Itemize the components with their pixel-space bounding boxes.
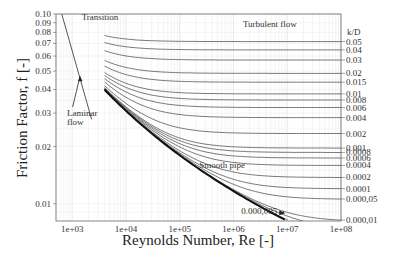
laminar-line: [62, 14, 92, 119]
x-tick-label: 1e+08: [330, 224, 353, 234]
kd-tick-label: 0.0001: [346, 184, 371, 194]
annotation-label: Transition: [82, 12, 119, 22]
roughness-curve: [105, 36, 341, 42]
roughness-curve: [105, 86, 341, 134]
y-tick-label: 0.04: [35, 84, 51, 94]
kd-tick-label: 0.002: [346, 129, 366, 139]
kd-tick-label: 0.03: [346, 55, 362, 65]
arrowhead-icon: [78, 76, 83, 81]
y-tick-label: 0.03: [35, 108, 51, 118]
x-tick-label: 1e+03: [61, 224, 84, 234]
y-tick-label: 0.02: [35, 142, 51, 152]
moody-chart: 0.100.090.080.070.060.050.040.030.020.01…: [0, 0, 393, 265]
y-tick-label: 0.06: [35, 51, 51, 61]
roughness-curve: [105, 51, 341, 60]
annotation-label: 0.000,005: [241, 206, 277, 216]
annotation-label: Turbulent flow: [243, 19, 297, 29]
roughness-curve: [105, 90, 288, 220]
kd-axis-ticks: 0.050.040.030.020.0150.010.0080.0060.004…: [341, 37, 378, 226]
kd-tick-label: 0.006: [346, 103, 367, 113]
kd-tick-label: 0.004: [346, 113, 367, 123]
roughness-curve: [105, 90, 341, 199]
annotation-label: Smooth pipe: [199, 160, 245, 170]
roughness-curve: [105, 73, 341, 94]
y-tick-label: 0.01: [35, 199, 51, 209]
roughness-curve: [105, 79, 341, 108]
y-axis-label: Friction Factor, f [-]: [14, 58, 30, 178]
y-tick-label: 0.08: [35, 27, 51, 37]
kd-axis-title: k/D: [347, 27, 361, 37]
roughness-curve: [105, 43, 341, 50]
kd-tick-label: 0.0002: [346, 172, 371, 182]
smooth-pipe-curve: [105, 90, 285, 220]
y-axis-ticks: 0.100.090.080.070.060.050.040.030.020.01: [35, 9, 56, 209]
annotation-label: flow: [67, 117, 84, 127]
x-tick-label: 1e+07: [276, 224, 299, 234]
kd-tick-label: 0.0004: [346, 160, 371, 170]
kd-tick-label: 0.015: [346, 77, 367, 87]
x-axis-label: Reynolds Number, Re [-]: [122, 232, 274, 248]
kd-tick-label: 0.000,01: [346, 215, 378, 225]
y-tick-label: 0.09: [35, 18, 51, 28]
kd-tick-label: 0.04: [346, 45, 362, 55]
y-tick-label: 0.07: [35, 38, 51, 48]
roughness-curve: [105, 60, 341, 73]
kd-tick-label: 0.000,05: [346, 194, 378, 204]
y-tick-label: 0.05: [35, 66, 51, 76]
